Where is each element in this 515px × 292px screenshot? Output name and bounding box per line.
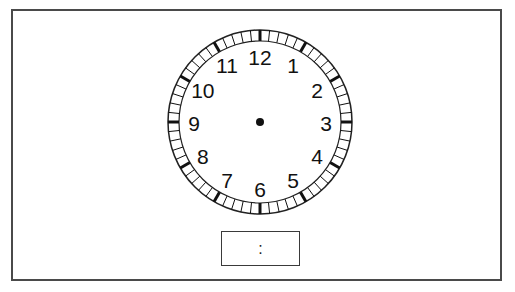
hour-numeral-4: 4: [311, 145, 323, 168]
time-separator: :: [258, 240, 262, 258]
clock-face: 121234567891011: [166, 28, 354, 216]
hour-numeral-5: 5: [287, 169, 299, 192]
time-entry-box[interactable]: :: [221, 231, 300, 266]
hour-numeral-11: 11: [216, 54, 238, 77]
hour-numeral-9: 9: [188, 112, 200, 135]
hour-numeral-1: 1: [287, 54, 299, 77]
hour-numeral-10: 10: [191, 79, 214, 102]
hour-numeral-6: 6: [254, 178, 266, 201]
hour-numeral-3: 3: [320, 112, 332, 135]
hour-numeral-7: 7: [221, 169, 233, 192]
hour-numeral-8: 8: [197, 145, 209, 168]
hour-numeral-2: 2: [311, 79, 323, 102]
hour-numeral-12: 12: [248, 46, 271, 69]
clock-center-dot: [256, 118, 264, 126]
